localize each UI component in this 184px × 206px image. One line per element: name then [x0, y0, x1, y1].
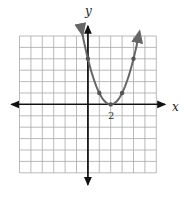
parabola-graph: [0, 0, 184, 206]
y-axis-label: y: [85, 4, 92, 18]
x-tick-label-2: 2: [108, 110, 114, 121]
data-point: [131, 57, 135, 61]
x-axis-label: x: [172, 100, 179, 114]
data-point: [120, 91, 124, 95]
data-point: [86, 57, 90, 61]
data-point: [109, 102, 113, 106]
data-point: [97, 91, 101, 95]
